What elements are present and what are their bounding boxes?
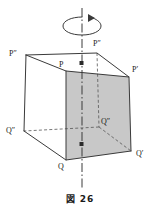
vertex-label-p: P	[59, 61, 63, 69]
figure-26-illustration: P″ P″ P P′ Q″ Q″ Q Q′	[0, 0, 160, 215]
vertex-label-p-double-prime: P″	[9, 50, 17, 58]
cube-rotation-diagram	[0, 0, 160, 215]
edge-vertical-left	[24, 55, 26, 131]
vertex-label-p-prime: P′	[132, 66, 138, 74]
vertex-label-q: Q	[58, 163, 64, 171]
vertex-label-q-inner: Q″	[101, 118, 110, 126]
vertex-label-q-prime: Q′	[136, 150, 144, 158]
figure-caption: 図 26	[0, 192, 160, 205]
axis-marker-upper	[80, 61, 84, 65]
vertex-label-q-double-prime: Q″	[6, 127, 15, 135]
axis-marker-lower	[80, 142, 84, 146]
vertex-label-p-double-prime-top: P″	[93, 40, 101, 48]
